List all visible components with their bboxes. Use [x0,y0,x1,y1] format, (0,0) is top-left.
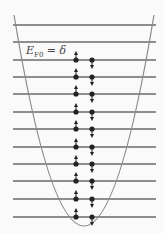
electron-spin-up [73,109,78,114]
electron-spin-down [89,109,94,114]
spin-down-arrowhead-icon [90,204,94,208]
spin-up-arrowhead-icon [74,103,78,107]
spin-up-arrowhead-icon [74,208,78,212]
electron-spin-up [73,214,78,219]
spin-up-arrowhead-icon [74,68,78,72]
electron-spin-down [89,91,94,96]
electron-spin-up [73,161,78,166]
electron-spin-down [89,74,94,79]
potential-well-svg [0,0,164,233]
energy-level-diagram: EF0 = δ [0,0,164,233]
electron-spin-up [73,57,78,62]
spin-down-arrowhead-icon [90,169,94,173]
electron-spin-down [89,161,94,166]
electron-spin-down [89,178,94,183]
spin-up-arrowhead-icon [74,138,78,142]
electron-spin-up [73,144,78,149]
electron-spin-down [89,214,94,219]
electron-spin-up [73,126,78,131]
electron-spin-down [89,126,94,131]
spin-up-arrowhead-icon [74,85,78,89]
spin-down-arrowhead-icon [90,134,94,138]
spin-down-arrowhead-icon [90,82,94,86]
spin-down-arrowhead-icon [90,152,94,156]
spin-up-arrowhead-icon [74,155,78,159]
spin-down-arrowhead-icon [90,99,94,103]
electron-spin-down [89,144,94,149]
spin-up-arrowhead-icon [74,190,78,194]
electron-spin-up [73,74,78,79]
electron-spin-up [73,91,78,96]
electron-spin-up [73,178,78,183]
spin-down-arrowhead-icon [90,65,94,69]
electron-spin-down [89,196,94,201]
spin-up-arrowhead-icon [74,51,78,55]
spin-up-arrowhead-icon [74,120,78,124]
spin-up-arrowhead-icon [74,172,78,176]
electron-spin-up [73,196,78,201]
spin-down-arrowhead-icon [90,186,94,190]
spin-down-arrowhead-icon [90,117,94,121]
fermi-level-label: EF0 = δ [26,44,66,59]
electron-spin-down [89,57,94,62]
